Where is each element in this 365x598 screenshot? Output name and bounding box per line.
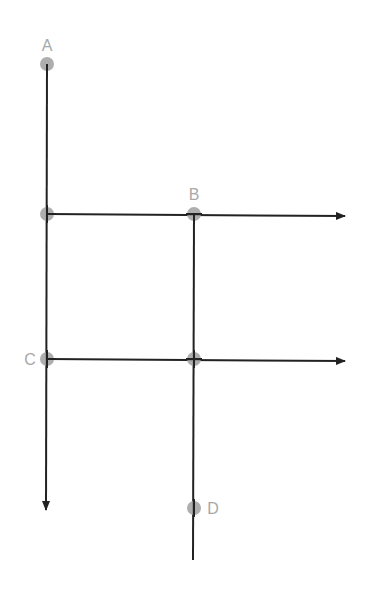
edge-a-down-arrow <box>46 64 47 510</box>
label-a: A <box>42 37 53 54</box>
label-c: C <box>24 351 36 368</box>
label-b: B <box>189 186 200 203</box>
label-d: D <box>207 500 219 517</box>
flow-diagram: A B C D <box>0 0 365 598</box>
